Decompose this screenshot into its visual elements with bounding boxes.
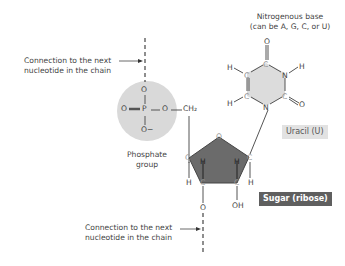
sugar-tag: Sugar (ribose) xyxy=(259,192,332,206)
atom-base-h-right: H xyxy=(299,62,305,72)
atom-sugar-c-br: C xyxy=(234,178,239,188)
atom-sugar-c-right: C xyxy=(247,153,252,163)
sugar-ring xyxy=(189,137,249,183)
atom-o-minus: O− xyxy=(141,125,153,135)
atom-base-c-right: C xyxy=(282,92,287,102)
atom-base-o-top: O xyxy=(264,37,270,47)
atom-sugar-oh: OH xyxy=(232,201,244,211)
atom-base-c-top: C xyxy=(263,60,268,70)
atom-ch2: CH₂ xyxy=(183,104,197,114)
atom-sugar-o-bottom: O xyxy=(200,203,206,213)
atom-base-o-right: O xyxy=(299,100,305,110)
atom-base-n-right: N xyxy=(282,71,288,81)
atom-sugar-h4: H xyxy=(248,178,254,188)
atom-sugar-c-bl: C xyxy=(200,178,205,188)
atom-sugar-c-left: C xyxy=(185,153,190,163)
atom-base-h-bl: H xyxy=(227,99,233,109)
nucleotide-diagram: O O P O O− CH₂ O C C C C H H H H O OH O … xyxy=(0,0,345,266)
atom-sugar-h3: H xyxy=(186,178,192,188)
atom-o-top: O xyxy=(141,85,147,95)
base-title: Nitrogenous base (can be A, G, C, or U) xyxy=(240,12,340,32)
bottom-connection-label: Connection to the next nucleotide in the… xyxy=(85,223,172,243)
atom-base-c-bl: C xyxy=(244,92,249,102)
phosphate-label: Phosphate group xyxy=(117,150,177,170)
uracil-tag: Uracil (U) xyxy=(282,125,328,139)
atom-base-c-tl: C xyxy=(244,71,249,81)
atom-sugar-o: O xyxy=(216,132,222,142)
atom-p: P xyxy=(142,104,147,114)
atom-base-n-bottom: N xyxy=(263,103,269,113)
atom-o-right: O xyxy=(162,104,168,114)
atom-base-h-tl: H xyxy=(227,63,233,73)
atom-sugar-h1: H xyxy=(200,157,206,167)
top-connection-label: Connection to the next nucleotide in the… xyxy=(24,56,111,76)
atom-o-left: O xyxy=(121,104,127,114)
atom-sugar-h2: H xyxy=(234,157,240,167)
